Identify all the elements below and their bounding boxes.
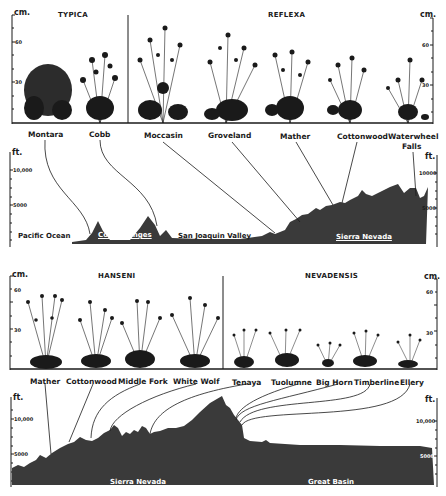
plant-hanseni-cottonwood bbox=[78, 300, 114, 368]
plant-montara bbox=[24, 64, 72, 120]
plant-cobb bbox=[80, 52, 118, 123]
region-label: Sierra Nevada bbox=[336, 233, 392, 241]
plant-cottonwood bbox=[327, 56, 367, 124]
station-label: Mather bbox=[30, 377, 60, 386]
region-label: Pacific Ocean bbox=[18, 232, 71, 240]
top-plants-right-tick-30: 30 bbox=[422, 82, 429, 88]
region-label: Coast Ranges bbox=[98, 231, 152, 239]
plant-nevadensis-tuolumne bbox=[269, 329, 302, 368]
station-label: Montara bbox=[28, 130, 63, 139]
top-profile-y-unit: ft. bbox=[12, 148, 22, 157]
bottom-plants-right-tick-30: 30 bbox=[426, 330, 433, 336]
plant-nevadensis-ellery bbox=[397, 334, 422, 369]
top-profile-tick-5000: 5000 bbox=[13, 202, 27, 208]
bottom-profile-right-tick-10000: 10,000 bbox=[416, 418, 435, 424]
group-title-nevadensis: NEVADENSIS bbox=[305, 272, 358, 280]
bottom-plants-y-unit-right: cm. bbox=[424, 272, 440, 281]
region-label: Great Basin bbox=[308, 478, 354, 486]
plant-nevadensis-timberline bbox=[353, 330, 380, 368]
plant-nevadensis-tenaya bbox=[233, 329, 258, 369]
bottom-profile-y-unit-right: ft. bbox=[425, 395, 435, 404]
bottom-plants-y-tick-30: 30 bbox=[14, 327, 21, 333]
top-plants-y-unit: cm. bbox=[14, 8, 30, 17]
top-profile-y-unit-right: ft. bbox=[425, 152, 435, 161]
top-plants-y-unit-right: cm. bbox=[420, 10, 436, 19]
bottom-profile-tick-5000: 5000 bbox=[14, 451, 28, 457]
group-title-reflexa: REFLEXA bbox=[268, 11, 305, 19]
plant-nevadensis-big-horn bbox=[317, 342, 342, 368]
region-label: Sierra Nevada bbox=[110, 478, 166, 486]
plant-moccasin bbox=[138, 26, 189, 124]
station-label: Waterwheel bbox=[388, 132, 438, 141]
station-label: Tenaya bbox=[232, 378, 261, 387]
station-label: Cottonwood bbox=[337, 132, 388, 141]
station-label: Big Horn bbox=[316, 378, 353, 387]
bottom-profile-y-unit: ft. bbox=[13, 393, 23, 402]
station-label: White Wolf bbox=[173, 377, 219, 386]
region-label: San Joaquin Valley bbox=[178, 232, 251, 240]
station-label: Falls bbox=[402, 142, 421, 151]
bottom-plants-y-unit: cm. bbox=[12, 270, 28, 279]
group-title-typica: TYPICA bbox=[58, 11, 88, 19]
bottom-terrain-profile bbox=[12, 396, 434, 485]
plant-groveland bbox=[204, 33, 258, 124]
plant-mather bbox=[265, 50, 311, 124]
station-label: Ellery bbox=[400, 378, 424, 387]
station-label: Cottonwood bbox=[66, 377, 117, 386]
top-profile-right-tick-10000: 10000 bbox=[419, 170, 436, 176]
station-label: Middle Fork bbox=[118, 377, 168, 386]
group-title-hanseni: HANSENI bbox=[98, 272, 136, 280]
plant-waterwheel-falls bbox=[386, 58, 429, 124]
plant-hanseni-mather bbox=[26, 294, 64, 369]
station-label: Moccasin bbox=[144, 131, 183, 140]
top-plants-y-tick-60: 60 bbox=[15, 39, 22, 45]
station-label: Tuolumne bbox=[271, 378, 312, 387]
top-profile-right-tick-5000: 5000 bbox=[422, 205, 436, 211]
station-label: Groveland bbox=[208, 131, 251, 140]
top-plants-right-tick-60: 60 bbox=[422, 42, 429, 48]
station-label: Cobb bbox=[89, 130, 110, 139]
plant-hanseni-middle-fork bbox=[120, 299, 162, 368]
top-plants-y-tick-30: 30 bbox=[15, 79, 22, 85]
bottom-plants-right-tick-60: 60 bbox=[426, 289, 433, 295]
top-profile-tick-10000: 10,000 bbox=[13, 167, 32, 173]
bottom-profile-right-tick-5000: 5000 bbox=[420, 453, 434, 459]
station-label: Mather bbox=[280, 132, 310, 141]
bottom-profile-tick-10000: 10,000 bbox=[14, 416, 33, 422]
top-plants-drawing bbox=[0, 0, 446, 496]
station-label: Timberline bbox=[354, 378, 399, 387]
bottom-plants-y-tick-60: 60 bbox=[14, 287, 21, 293]
plant-hanseni-white-wolf bbox=[170, 296, 220, 368]
